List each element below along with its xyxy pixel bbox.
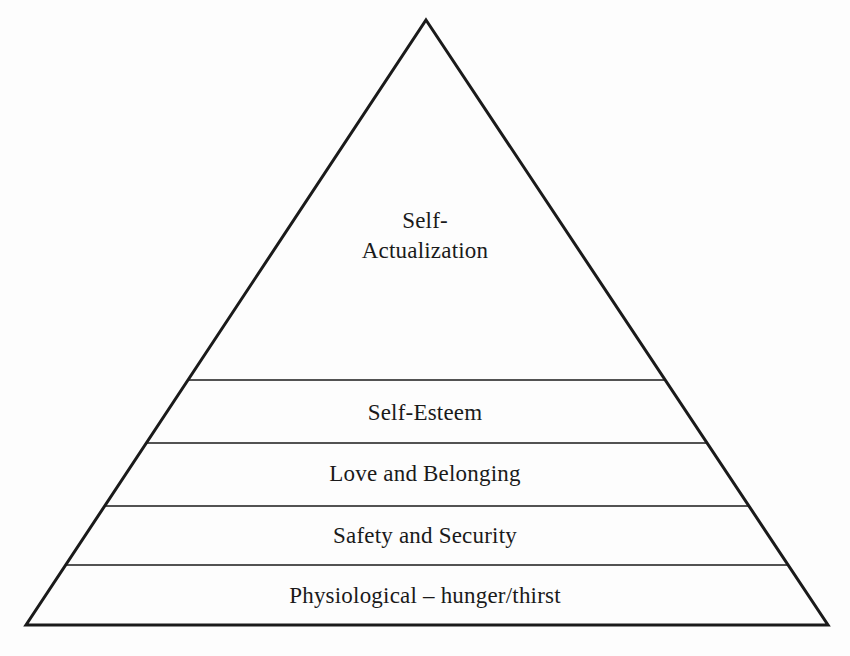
pyramid-diagram-canvas: Self- Actualization Self-Esteem Love and… — [0, 0, 850, 656]
pyramid-shape — [0, 0, 850, 656]
pyramid-outline — [26, 20, 828, 625]
